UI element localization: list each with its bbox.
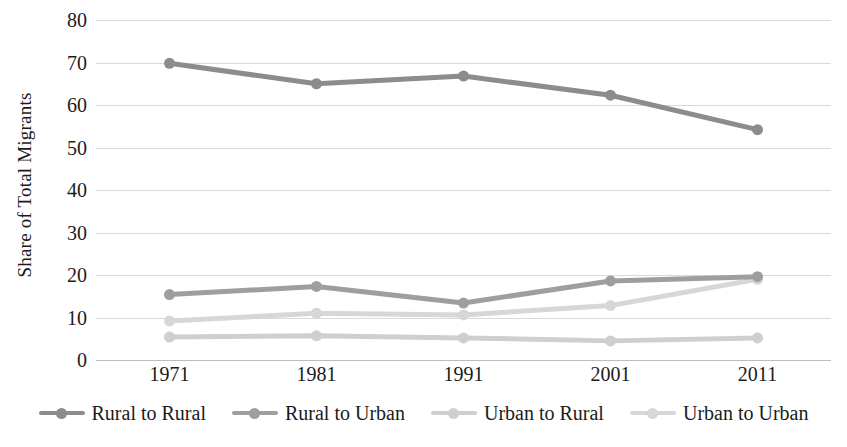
data-point-marker xyxy=(752,124,763,135)
data-point-marker xyxy=(311,330,322,341)
line-chart-figure: Share of Total Migrants 0102030405060708… xyxy=(0,0,847,447)
data-point-marker xyxy=(605,300,616,311)
plot-area: 01020304050607080 xyxy=(96,20,831,360)
legend-swatch-icon xyxy=(232,406,278,420)
legend-swatch-icon xyxy=(630,406,676,420)
legend-label: Rural to Urban xyxy=(285,403,405,423)
x-axis-tick-label: 1991 xyxy=(444,364,484,384)
series-rural-to-rural xyxy=(164,58,763,135)
legend-label: Urban to Urban xyxy=(683,403,809,423)
data-point-marker xyxy=(752,271,763,282)
data-point-marker xyxy=(605,335,616,346)
y-axis-title-text: Share of Total Migrants xyxy=(14,93,36,278)
chart-legend: Rural to RuralRural to UrbanUrban to Rur… xyxy=(0,393,847,433)
x-axis-tick-label: 2011 xyxy=(738,364,777,384)
legend-swatch-icon xyxy=(431,406,477,420)
data-point-marker xyxy=(311,281,322,292)
y-axis-tick-label: 0 xyxy=(77,350,87,370)
y-axis-tick-label: 70 xyxy=(67,53,87,73)
data-point-marker xyxy=(605,90,616,101)
data-point-marker xyxy=(311,308,322,319)
legend-label: Urban to Rural xyxy=(484,403,604,423)
x-axis-tick-label: 1981 xyxy=(297,364,337,384)
legend-item[interactable]: Urban to Rural xyxy=(431,403,604,423)
data-point-marker xyxy=(311,78,322,89)
data-point-marker xyxy=(164,58,175,69)
data-point-marker xyxy=(458,71,469,82)
y-axis-title: Share of Total Migrants xyxy=(0,0,50,370)
data-point-marker xyxy=(164,289,175,300)
x-axis-tick-label: 1971 xyxy=(150,364,190,384)
data-point-marker xyxy=(458,298,469,309)
legend-swatch-icon xyxy=(39,406,85,420)
y-axis-tick-label: 50 xyxy=(67,138,87,158)
series-urban-to-rural xyxy=(164,330,763,346)
legend-label: Rural to Rural xyxy=(92,403,206,423)
data-point-marker xyxy=(458,332,469,343)
y-axis-tick-label: 20 xyxy=(67,265,87,285)
y-axis-tick-label: 80 xyxy=(67,10,87,30)
legend-item[interactable]: Urban to Urban xyxy=(630,403,809,423)
data-point-marker xyxy=(164,315,175,326)
y-axis-tick-label: 60 xyxy=(67,95,87,115)
data-point-marker xyxy=(458,309,469,320)
x-axis-ticks: 19711981199120012011 xyxy=(96,360,831,394)
data-point-marker xyxy=(605,275,616,286)
y-axis-tick-label: 10 xyxy=(67,308,87,328)
y-axis-tick-label: 30 xyxy=(67,223,87,243)
legend-item[interactable]: Rural to Rural xyxy=(39,403,206,423)
y-axis-tick-label: 40 xyxy=(67,180,87,200)
data-point-marker xyxy=(752,332,763,343)
series-lines xyxy=(96,20,831,360)
legend-item[interactable]: Rural to Urban xyxy=(232,403,405,423)
data-point-marker xyxy=(164,332,175,343)
x-axis-tick-label: 2001 xyxy=(591,364,631,384)
series-rural-to-urban xyxy=(164,271,763,308)
